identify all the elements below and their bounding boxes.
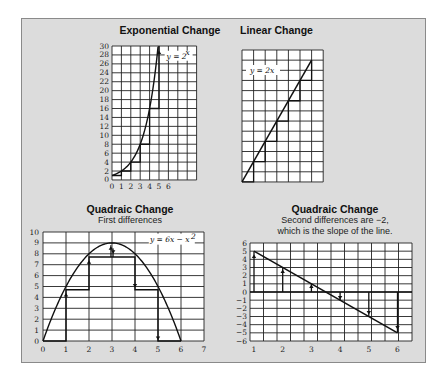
charts-canvas: 0246810121416182022242628300123456y = 2x… [0, 0, 448, 382]
svg-text:y = 2: y = 2 [166, 52, 187, 61]
svg-text:6: 6 [166, 182, 171, 191]
svg-text:0: 0 [41, 345, 46, 354]
svg-text:24: 24 [99, 68, 109, 77]
exponential-chart: 0246810121416182022242628300123456y = 2x [99, 42, 196, 191]
svg-text:7: 7 [202, 345, 207, 354]
svg-text:3: 3 [110, 345, 115, 354]
svg-text:4: 4 [147, 182, 152, 191]
svg-text:3: 3 [138, 182, 143, 191]
svg-text:y = 6x − x: y = 6x − x [149, 235, 190, 244]
svg-text:1: 1 [64, 345, 69, 354]
svg-text:5: 5 [34, 282, 39, 291]
svg-text:1: 1 [252, 345, 257, 354]
svg-text:26: 26 [99, 59, 109, 68]
svg-text:2: 2 [190, 232, 196, 241]
svg-text:10: 10 [29, 228, 39, 237]
svg-text:12: 12 [99, 122, 109, 131]
svg-text:3: 3 [309, 345, 314, 354]
svg-text:8: 8 [34, 249, 39, 258]
svg-text:0: 0 [34, 337, 39, 346]
svg-text:6: 6 [34, 271, 39, 280]
svg-text:5: 5 [157, 182, 162, 191]
svg-text:3: 3 [34, 304, 39, 313]
svg-text:14: 14 [99, 113, 109, 122]
svg-text:2: 2 [128, 182, 133, 191]
svg-text:5: 5 [156, 345, 161, 354]
svg-text:7: 7 [34, 260, 39, 269]
svg-text:9: 9 [34, 238, 39, 247]
svg-text:28: 28 [99, 50, 109, 59]
svg-text:4: 4 [104, 158, 109, 167]
svg-text:5: 5 [366, 345, 371, 354]
svg-text:4: 4 [133, 345, 138, 354]
svg-text:−6: −6 [236, 337, 247, 346]
svg-text:2: 2 [34, 315, 39, 324]
svg-text:2: 2 [280, 345, 285, 354]
svg-text:2: 2 [87, 345, 92, 354]
svg-text:16: 16 [99, 104, 109, 113]
quadratic-second-differences-chart: 6543210−1−2−3−4−5−6123456 [236, 239, 412, 355]
svg-text:4: 4 [338, 345, 343, 354]
svg-text:1: 1 [34, 326, 39, 335]
svg-text:1: 1 [119, 182, 124, 191]
quadratic-first-differences-chart: 01234567891001234567y = 6x − x2 [29, 228, 206, 355]
svg-text:2: 2 [104, 167, 109, 176]
svg-text:0: 0 [110, 182, 115, 191]
svg-text:6: 6 [395, 345, 400, 354]
svg-text:30: 30 [99, 42, 109, 51]
svg-text:4: 4 [34, 293, 39, 302]
svg-text:22: 22 [99, 77, 109, 86]
svg-text:6: 6 [179, 345, 184, 354]
svg-text:6: 6 [104, 149, 109, 158]
linear-chart: y = 2x [242, 50, 323, 182]
svg-text:0: 0 [104, 175, 109, 184]
svg-text:8: 8 [104, 140, 109, 149]
svg-text:20: 20 [99, 86, 109, 95]
svg-text:y = 2x: y = 2x [249, 66, 275, 75]
svg-text:10: 10 [99, 131, 109, 140]
svg-text:18: 18 [99, 95, 109, 104]
